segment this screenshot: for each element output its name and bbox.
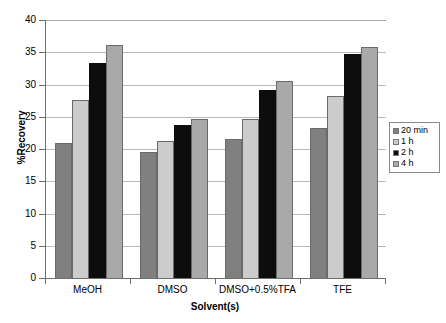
y-axis-tick-label: 40 xyxy=(0,15,36,25)
legend-label: 4 h xyxy=(401,159,414,168)
y-axis-tick-label: 20 xyxy=(0,144,36,154)
y-axis-tick-label: 35 xyxy=(0,47,36,57)
x-axis-category-label: DMSO xyxy=(130,284,215,296)
bar-groups xyxy=(46,20,386,278)
bar xyxy=(106,45,123,278)
bar-group xyxy=(301,20,386,278)
legend-label: 2 h xyxy=(401,148,414,157)
x-axis-tick xyxy=(385,279,386,284)
bar xyxy=(72,100,89,278)
x-axis-category-labels: MeOHDMSODMSO+0.5%TFATFE xyxy=(45,284,385,296)
bar xyxy=(225,139,242,278)
legend-swatch-icon xyxy=(393,161,399,167)
bar xyxy=(157,141,174,278)
x-axis-category-label: MeOH xyxy=(45,284,130,296)
y-axis-tick-label: 30 xyxy=(0,80,36,90)
x-axis-category-label: DMSO+0.5%TFA xyxy=(215,284,300,296)
bar-group xyxy=(46,20,131,278)
bar xyxy=(327,96,344,278)
bar-group xyxy=(131,20,216,278)
bar xyxy=(344,54,361,278)
bar xyxy=(310,128,327,278)
bar xyxy=(89,63,106,278)
legend-item[interactable]: 20 min xyxy=(393,125,437,136)
legend-label: 1 h xyxy=(401,137,414,146)
bar xyxy=(242,119,259,278)
y-axis-tick-label: 15 xyxy=(0,176,36,186)
legend-item[interactable]: 1 h xyxy=(393,136,437,147)
y-axis-tick-label: 10 xyxy=(0,209,36,219)
bar xyxy=(259,90,276,278)
bar xyxy=(140,152,157,278)
legend-swatch-icon xyxy=(393,128,399,134)
plot-area xyxy=(45,20,386,279)
legend-item[interactable]: 4 h xyxy=(393,158,437,169)
bar xyxy=(55,143,72,278)
x-axis-category-label: TFE xyxy=(300,284,385,296)
y-axis-tick-label: 25 xyxy=(0,112,36,122)
bar xyxy=(191,119,208,278)
legend-swatch-icon xyxy=(393,150,399,156)
x-axis-title: Solvent(s) xyxy=(45,301,385,312)
y-axis-tick-label: 5 xyxy=(0,241,36,251)
bar xyxy=(174,125,191,279)
bar xyxy=(276,81,293,278)
chart-legend: 20 min1 h2 h4 h xyxy=(389,122,440,173)
bar xyxy=(361,47,378,278)
legend-swatch-icon xyxy=(393,139,399,145)
legend-label: 20 min xyxy=(401,126,428,135)
bar-group xyxy=(216,20,301,278)
y-axis-tick-label: 0 xyxy=(0,273,36,283)
bar-chart-figure: %Recovery 0510152025303540 MeOHDMSODMSO+… xyxy=(0,0,446,323)
legend-item[interactable]: 2 h xyxy=(393,147,437,158)
